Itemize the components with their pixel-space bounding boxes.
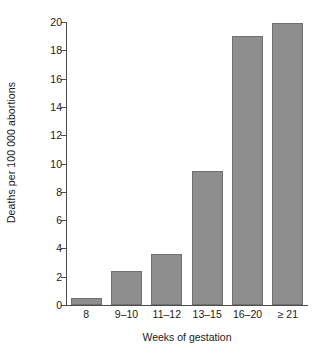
x-axis-tick-labels: 89–1011–1213–1516–20≥ 21	[66, 307, 308, 325]
x-axis-title: Weeks of gestation	[66, 330, 308, 344]
plot-area: 02468101214161820	[66, 22, 308, 305]
bar	[272, 23, 303, 305]
bars-layer	[66, 22, 308, 305]
bar	[232, 36, 263, 305]
y-axis-tick-label: 10	[50, 157, 62, 171]
x-axis-line	[66, 305, 308, 306]
y-axis-tick-label: 18	[50, 43, 62, 57]
y-axis-tick-label: 6	[56, 213, 62, 227]
y-axis-tick-label: 20	[50, 15, 62, 29]
y-axis-title: Deaths per 100 000 abortions	[0, 0, 22, 305]
y-axis-tick-label: 14	[50, 100, 62, 114]
y-axis-tick-label: 2	[56, 270, 62, 284]
bar	[151, 254, 182, 305]
y-axis-tick-label: 4	[56, 241, 62, 255]
bar	[111, 271, 142, 305]
y-axis-tick-label: 12	[50, 128, 62, 142]
bar	[192, 171, 223, 305]
bar	[71, 298, 102, 305]
x-axis-tick-label: ≥ 21	[262, 307, 314, 321]
bar-chart-figure: Deaths per 100 000 abortions 02468101214…	[0, 0, 324, 363]
y-axis-tick-label: 8	[56, 185, 62, 199]
y-axis-tick-label: 16	[50, 72, 62, 86]
